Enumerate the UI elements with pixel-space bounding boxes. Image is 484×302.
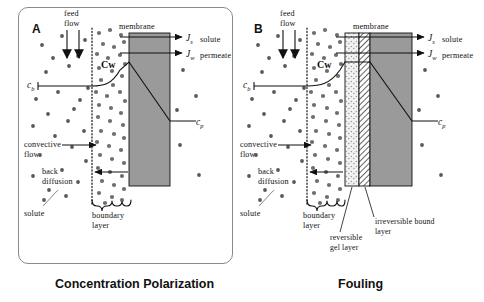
- panel-b-flux-solute-symbol: Js: [428, 33, 435, 45]
- panel-b-reversible-gel-layer-label-line1: reversible: [330, 233, 362, 243]
- panel-a-caption: Concentration Polarization: [55, 277, 214, 291]
- panel-b-convective-flow-label-line2: flow: [240, 150, 256, 160]
- panel-b-back-diffusion-label-line1: back: [258, 167, 274, 177]
- panel-a-concentration-profile: [38, 62, 196, 121]
- panel-b-cp-sub: p: [442, 122, 445, 129]
- panel-b-irreversible-bound-layer-leader: [365, 187, 374, 217]
- panel-b-reversible-gel-layer-label-line2: gel layer: [330, 243, 358, 253]
- panel-b-flux-permeate-symbol: Jw: [428, 49, 436, 61]
- panel-b-membrane-block: [370, 33, 412, 186]
- panel-b-flux-permeate-sub: w: [432, 54, 436, 61]
- panel-b-cb-symbol: cb: [243, 80, 250, 92]
- panel-b-cp-symbol: cp: [438, 117, 445, 129]
- panel-b-reversible-gel-layer-leader: [340, 187, 352, 232]
- figure-root: A feed flow membrane convective flow bac…: [0, 0, 484, 302]
- panel-a-solute-particles-permeate: [175, 68, 201, 177]
- panel-b-boundary-layer-label-line1: boundary: [303, 211, 335, 221]
- panel-b-solute-leader: [259, 190, 274, 206]
- panel-a-boundary-layer-brace: [92, 200, 131, 211]
- panel-b-irreversible-bound-layer: [359, 33, 370, 186]
- panel-b-feed-flow-label-line1: feed: [280, 9, 295, 19]
- panel-a-membrane-block: [129, 33, 170, 186]
- panel-b-flux-solute-label: solute: [442, 35, 462, 45]
- panel-b-caption: Fouling: [338, 277, 383, 291]
- panel-b-convective-flow-label-line1: convective: [240, 140, 277, 150]
- panel-b-feed-flow-label-line2: flow: [280, 19, 296, 29]
- panel-b-back-diffusion-label-line2: diffusion: [258, 177, 289, 187]
- panel-b-letter: B: [254, 22, 263, 36]
- panel-b-reversible-gel-layer: [345, 33, 359, 186]
- panel-b-flux-solute-sub: s: [432, 38, 435, 45]
- panel-b-flux-permeate-label: permeate: [442, 51, 473, 61]
- panel-b-cw-symbol: Cw: [317, 59, 331, 70]
- panel-a-solute-particles-boundary-layer: [94, 28, 127, 205]
- panel-b-irreversible-bound-layer-label-line1: irreversible bound: [375, 217, 435, 227]
- panel-b-cb-sub: b: [247, 85, 250, 92]
- panel-b-membrane-label: membrane: [353, 22, 389, 32]
- panel-a-solute-leader: [43, 190, 58, 206]
- panel-b-boundary-layer-label-line2: layer: [303, 221, 320, 231]
- panel-b-solute-label: solute: [240, 209, 260, 219]
- panel-b-solute-particles-boundary-layer: [309, 28, 343, 205]
- panel-b-irreversible-bound-layer-label-line2: layer: [375, 227, 391, 237]
- panel-a-solute-particles-bulk: [31, 34, 90, 202]
- panel-b-boundary-layer-brace: [307, 200, 345, 211]
